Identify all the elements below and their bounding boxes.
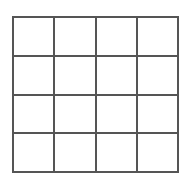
grid-cell <box>96 17 137 56</box>
grid-cell <box>54 56 95 95</box>
grid-cell <box>96 95 137 134</box>
grid-cell <box>137 133 178 172</box>
grid-cell <box>137 17 178 56</box>
grid-cell <box>13 133 54 172</box>
grid-cell <box>54 17 95 56</box>
grid-cell <box>13 56 54 95</box>
grid-cell <box>137 56 178 95</box>
grid-cell <box>13 17 54 56</box>
grid-cell <box>54 133 95 172</box>
grid-cell <box>54 95 95 134</box>
grid-cell <box>137 95 178 134</box>
grid-cell <box>96 56 137 95</box>
grid-cell <box>96 133 137 172</box>
grid-4x4 <box>12 16 179 173</box>
grid-cell <box>13 95 54 134</box>
